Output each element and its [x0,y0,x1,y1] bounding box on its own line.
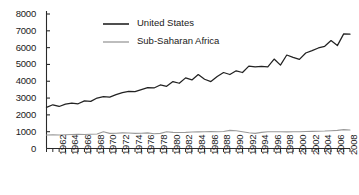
x-axis-tick-label: 2002 [310,134,321,154]
x-axis-tick-label: 1962 [57,134,68,154]
x-axis-tick-label: 1984 [196,134,207,154]
x-axis-tick-label: 1990 [234,134,245,154]
x-axis-tick-label: 1992 [247,134,258,154]
y-axis-tick-label: 4000 [2,75,36,86]
x-axis-tick-label: 1970 [107,134,118,154]
y-axis-tick-label: 2000 [2,109,36,120]
y-axis-tick-label: 1000 [2,126,36,137]
x-axis-tick-label: 2008 [348,134,359,154]
x-axis-tick-label: 1968 [95,134,106,154]
x-axis-tick-label: 1988 [221,134,232,154]
y-axis-tick-label: 0 [2,143,36,154]
x-axis-tick-label: 1998 [284,134,295,154]
x-axis-tick-label: 1966 [82,134,93,154]
y-axis-tick-label: 5000 [2,58,36,69]
y-axis-tick-label: 6000 [2,42,36,53]
x-axis-tick-label: 1986 [209,134,220,154]
x-axis-tick-label: 1978 [158,134,169,154]
x-axis-tick-label: 1974 [133,134,144,154]
x-axis-tick-label: 2000 [297,134,308,154]
legend-label-1: United States [137,17,194,28]
x-axis-tick-label: 2004 [322,134,333,154]
x-axis-tick-label: 1996 [272,134,283,154]
x-axis-tick-label: 1982 [183,134,194,154]
y-axis-tick-label: 8000 [2,8,36,19]
y-axis-tick-label: 7000 [2,25,36,36]
y-axis-tick-label: 3000 [2,92,36,103]
legend-label-2: Sub-Saharan Africa [137,35,219,46]
x-axis-tick-label: 2006 [335,134,346,154]
x-axis-tick-label: 1980 [171,134,182,154]
x-axis-tick-label: 1994 [259,134,270,154]
x-axis-tick-label: 1972 [120,134,131,154]
x-axis-tick-label: 1964 [69,134,80,154]
x-axis-tick-label: 1976 [145,134,156,154]
